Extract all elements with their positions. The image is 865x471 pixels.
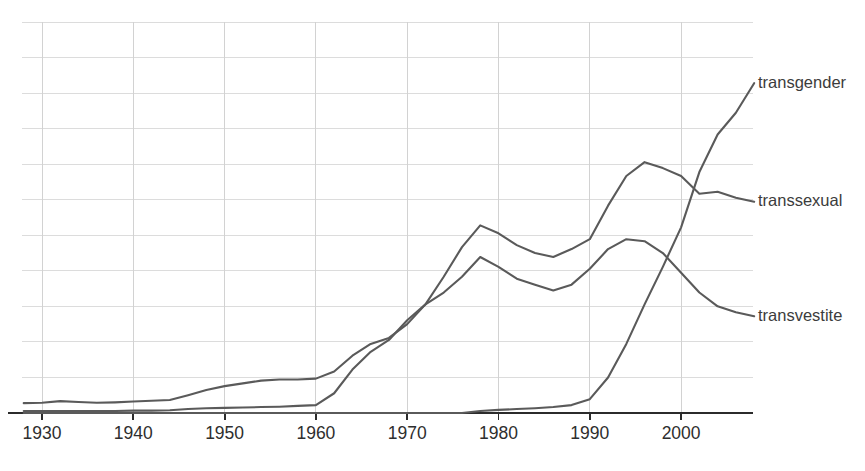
vertical-gridlines: [42, 22, 681, 413]
ngram-line-chart: 19301940195019601970198019902000 transge…: [0, 0, 865, 471]
x-tick-label-1990: 1990: [570, 423, 609, 443]
x-tick-label-1950: 1950: [205, 423, 244, 443]
x-tick-label-1960: 1960: [296, 423, 335, 443]
series-label-transsexual: transsexual: [758, 191, 842, 209]
x-tick-label-1940: 1940: [114, 423, 153, 443]
series-label-transgender: transgender: [758, 73, 847, 91]
chart-canvas: 19301940195019601970198019902000 transge…: [0, 0, 865, 471]
x-tick-label-1970: 1970: [388, 423, 427, 443]
x-axis-tick-labels: 19301940195019601970198019902000: [23, 423, 701, 443]
horizontal-gridlines: [22, 22, 753, 378]
x-tick-label-1980: 1980: [479, 423, 518, 443]
x-tick-label-1930: 1930: [23, 423, 62, 443]
series-labels: transgendertranssexualtransvestite: [758, 73, 847, 324]
series-label-transvestite: transvestite: [758, 306, 842, 324]
x-tick-label-2000: 2000: [662, 423, 701, 443]
